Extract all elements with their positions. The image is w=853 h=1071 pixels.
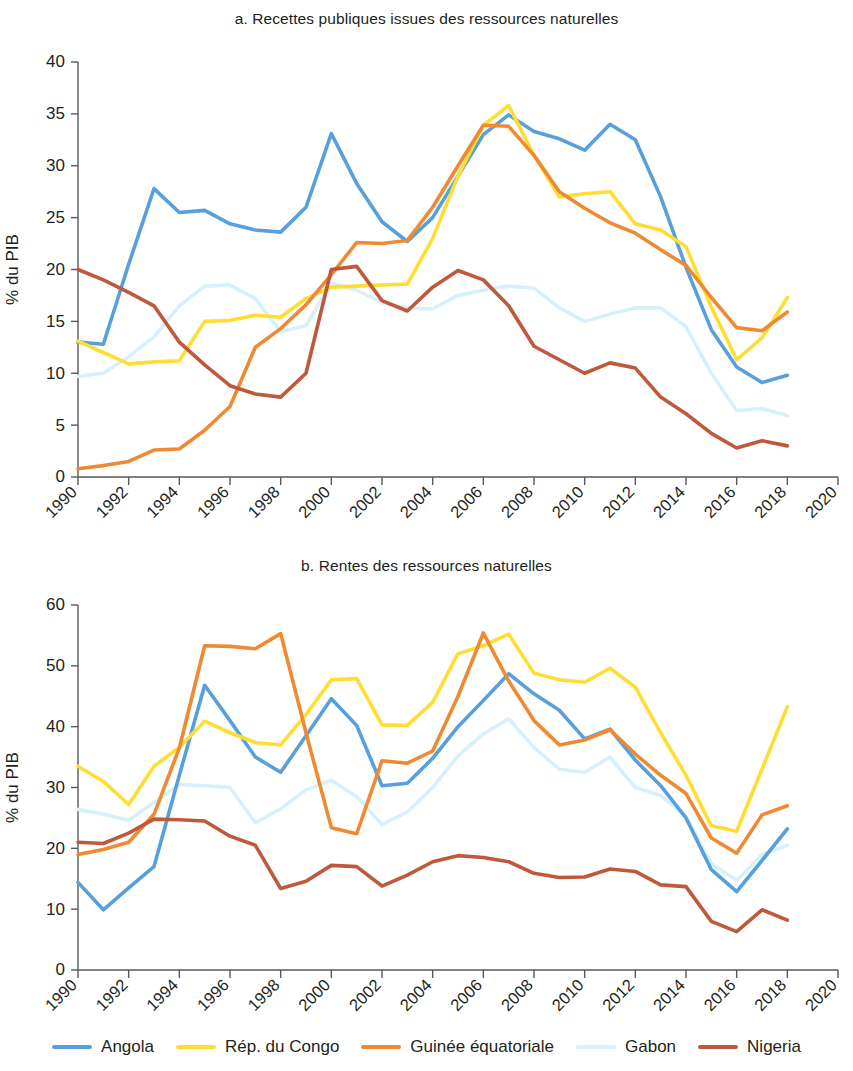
chart-panel-b: b. Rentes des ressources naturelles 0102… [0,545,853,1015]
y-axis-title: % du PIB [3,234,22,305]
legend-item-angola[interactable]: Angola [52,1037,154,1057]
legend-item-label: Gabon [625,1037,676,1057]
y-tick-label: 20 [46,260,65,279]
y-tick-label: 20 [46,839,65,858]
x-tick-label: 2014 [649,482,688,521]
y-tick-label: 60 [46,595,65,614]
legend-swatch-icon [176,1045,216,1050]
y-tick-label: 35 [46,104,65,123]
panel-b-plot-area: 0102030405060199019921994199619982000200… [0,545,853,1015]
x-tick-label: 1994 [143,482,182,521]
y-tick-label: 40 [46,717,65,736]
y-tick-label: 10 [46,364,65,383]
x-tick-label: 2006 [447,482,486,521]
x-tick-label: 2010 [548,482,587,521]
x-tick-label: 1996 [193,975,232,1014]
panel-a-svg: 0510152025303540199019921994199619982000… [0,0,853,545]
legend-item-nigeria[interactable]: Nigeria [698,1037,801,1057]
series-line-angola [78,115,787,383]
x-tick-label: 1992 [92,975,131,1014]
legend-swatch-icon [576,1045,616,1050]
legend-item-label: Nigeria [747,1037,801,1057]
y-tick-label: 15 [46,312,65,331]
x-tick-label: 2004 [396,975,435,1014]
x-tick-label: 2000 [295,482,334,521]
x-tick-label: 1996 [193,482,232,521]
x-tick-label: 2008 [497,975,536,1014]
x-tick-label: 2018 [751,975,790,1014]
panel-b-svg: 0102030405060199019921994199619982000200… [0,545,853,1015]
x-tick-label: 1990 [41,482,80,521]
x-tick-label: 1998 [244,975,283,1014]
y-axis-title: % du PIB [3,752,22,823]
legend-swatch-icon [361,1045,401,1050]
series-line-guin-e-quatoriale [78,125,787,468]
x-tick-label: 1990 [41,975,80,1014]
legend-item-label: Guinée équatoriale [410,1037,554,1057]
x-tick-label: 1994 [143,975,182,1014]
legend-swatch-icon [52,1045,92,1050]
x-tick-label: 2002 [345,975,384,1014]
x-tick-label: 2002 [345,482,384,521]
y-tick-label: 50 [46,656,65,675]
series-line-r-p-du-congo [78,106,787,364]
legend-item-gabon[interactable]: Gabon [576,1037,676,1057]
legend-item-r-p-du-congo[interactable]: Rép. du Congo [176,1037,339,1057]
y-tick-label: 30 [46,778,65,797]
x-tick-label: 2004 [396,482,435,521]
y-tick-label: 0 [56,960,65,979]
figure-root: a. Recettes publiques issues des ressour… [0,0,853,1071]
x-tick-label: 2006 [447,975,486,1014]
legend-swatch-icon [698,1045,738,1050]
x-tick-label: 2000 [295,975,334,1014]
panel-a-plot-area: 0510152025303540199019921994199619982000… [0,0,853,545]
x-tick-label: 1992 [92,482,131,521]
x-tick-label: 2014 [649,975,688,1014]
y-tick-label: 25 [46,208,65,227]
legend-item-label: Rép. du Congo [225,1037,339,1057]
x-tick-label: 2012 [599,482,638,521]
legend-item-guin-e-quatoriale[interactable]: Guinée équatoriale [361,1037,554,1057]
x-tick-label: 1998 [244,482,283,521]
x-tick-label: 2008 [497,482,536,521]
legend-item-label: Angola [101,1037,154,1057]
x-tick-label: 2018 [751,482,790,521]
series-line-nigeria [78,266,787,448]
x-tick-label: 2016 [700,482,739,521]
x-tick-label: 2012 [599,975,638,1014]
chart-legend: AngolaRép. du CongoGuinée équatorialeGab… [0,1027,853,1067]
y-tick-label: 30 [46,156,65,175]
x-tick-label: 2016 [700,975,739,1014]
y-tick-label: 0 [56,467,65,486]
series-line-nigeria [78,819,787,932]
x-tick-label: 2020 [801,975,840,1014]
series-line-gabon [78,283,787,416]
y-tick-label: 40 [46,52,65,71]
x-tick-label: 2020 [801,482,840,521]
x-tick-label: 2010 [548,975,587,1014]
y-tick-label: 5 [56,416,65,435]
chart-panel-a: a. Recettes publiques issues des ressour… [0,0,853,545]
y-tick-label: 10 [46,900,65,919]
